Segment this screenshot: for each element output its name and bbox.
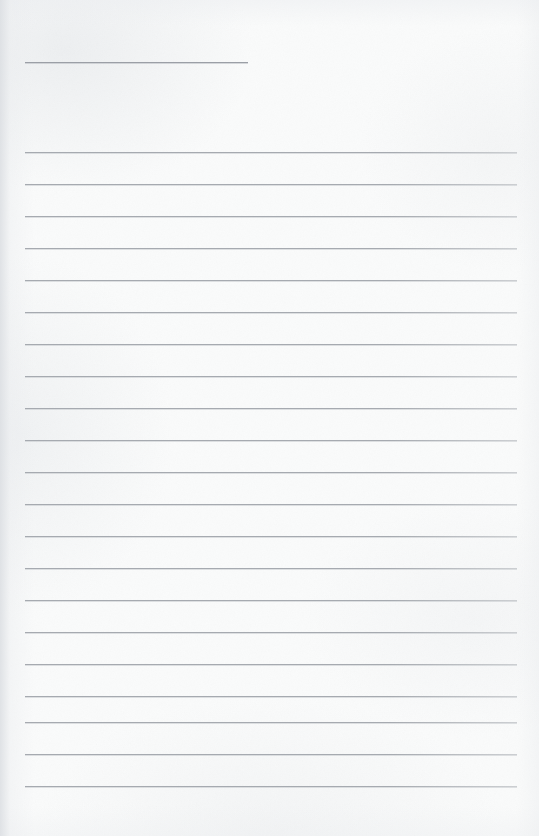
header-rule [25, 62, 248, 63]
writing-rule-20 [25, 754, 517, 755]
writing-rule-18 [25, 696, 517, 697]
writing-rule-8 [25, 376, 517, 377]
writing-rule-21 [25, 786, 517, 787]
writing-rule-16 [25, 632, 517, 633]
writing-rule-3 [25, 216, 517, 217]
writing-rule-7 [25, 344, 517, 345]
writing-rule-15 [25, 600, 517, 601]
writing-rule-12 [25, 504, 517, 505]
paper-background [0, 0, 539, 836]
writing-rule-2 [25, 184, 517, 185]
writing-rule-4 [25, 248, 517, 249]
writing-rule-13 [25, 536, 517, 537]
writing-rule-17 [25, 664, 517, 665]
writing-rule-11 [25, 472, 517, 473]
writing-rule-10 [25, 440, 517, 441]
writing-rule-5 [25, 280, 517, 281]
writing-rule-6 [25, 312, 517, 313]
writing-rule-1 [25, 152, 517, 153]
writing-rule-9 [25, 408, 517, 409]
writing-rule-19 [25, 722, 517, 723]
writing-rule-14 [25, 568, 517, 569]
ruled-paper-page [0, 0, 539, 836]
